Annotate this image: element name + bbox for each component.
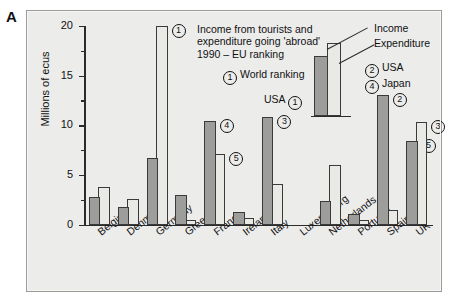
bar-portugal-income [348, 214, 360, 225]
chart-title-line: expenditure going 'abroad' [197, 35, 320, 47]
legend-world-ranking: 1 World ranking [223, 68, 305, 85]
y-tick-minor [81, 51, 84, 52]
bar-spain-income [377, 95, 389, 224]
bar-ireland-income [233, 212, 245, 225]
bar-netherlands-income [320, 201, 332, 225]
panel-letter: A [6, 8, 17, 25]
rank-badge-france-expenditure: 5 [229, 151, 243, 166]
bar-greece-income [175, 195, 187, 225]
legend-expenditure-label: Expenditure [374, 37, 430, 49]
usa-left-symbol: 1 [288, 96, 302, 110]
bar-germany-income [147, 158, 159, 224]
y-tick-minor [81, 100, 84, 101]
y-axis-title: Millions of ecus [39, 9, 51, 169]
legend-key-bars [314, 43, 348, 116]
bar-italy-income [262, 117, 274, 224]
rank-badge-france-income: 4 [220, 118, 234, 133]
usa-left-label: USA [264, 93, 285, 105]
legend-income-label: Income [374, 22, 408, 34]
y-axis-line [84, 26, 86, 226]
bar-france-income [204, 121, 216, 224]
rank-badge-germany-expenditure: 1 [172, 23, 186, 38]
bar-uk-income [406, 141, 418, 224]
rank-badge-uk-expenditure: 3 [431, 119, 445, 134]
legend-row-japan: 4 Japan [365, 77, 411, 94]
bar-denmark-income [118, 207, 130, 225]
y-tick-label: 5 [27, 168, 73, 180]
chart-title-line: 1990 – EU ranking [197, 48, 320, 60]
plot-area: 05101520 Millions of ecus 1453253 Belgiu… [27, 11, 443, 293]
rank-badge-spain-income: 2 [393, 92, 407, 107]
y-tick-minor [81, 200, 84, 201]
legend-key-expenditure-bar [327, 43, 341, 116]
bar-belgium-income [89, 197, 101, 225]
y-tick-major [79, 26, 84, 27]
world-ranking-symbol: 1 [223, 71, 237, 85]
legend-symbol-japan: 4 [365, 80, 379, 94]
legend-symbol-usa: 2 [365, 64, 379, 78]
legend-usa-left: USA 1 [264, 93, 302, 110]
y-tick-minor [81, 150, 84, 151]
legend-row-usa: 2 USA [365, 61, 404, 78]
legend-label-japan: Japan [382, 77, 411, 89]
y-tick-major [79, 76, 84, 77]
chart-title-line: Income from tourists and [197, 23, 320, 35]
y-tick-major [79, 175, 84, 176]
y-tick-major [79, 225, 84, 226]
y-tick-label: 0 [27, 218, 73, 230]
chart-title: Income from tourists andexpenditure goin… [197, 23, 320, 60]
chart-frame: 05101520 Millions of ecus 1453253 Belgiu… [26, 10, 442, 292]
legend-key-baseline [311, 116, 351, 117]
rank-badge-italy-income: 3 [277, 114, 291, 129]
y-tick-major [79, 125, 84, 126]
chart-screenshot: A 05101520 Millions of ecus 1453253 Belg… [0, 0, 450, 301]
legend-label-usa: USA [382, 61, 404, 73]
world-ranking-label: World ranking [240, 68, 305, 80]
